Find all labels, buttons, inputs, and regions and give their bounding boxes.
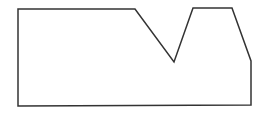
- background: [0, 0, 271, 121]
- diagram-canvas: [0, 0, 271, 121]
